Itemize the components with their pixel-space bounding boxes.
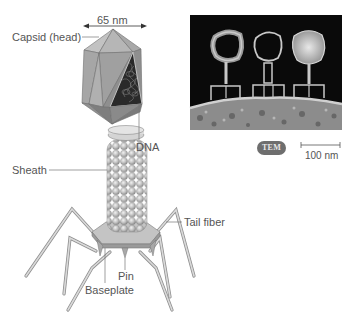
capsid-label: Capsid (head) bbox=[12, 31, 81, 43]
collar-shape bbox=[108, 126, 144, 141]
phage-diagram bbox=[0, 0, 349, 313]
sheath-shape bbox=[107, 140, 147, 232]
capsid-shape bbox=[82, 29, 142, 124]
pin-label: Pin bbox=[118, 270, 134, 282]
dna-label: DNA bbox=[136, 141, 159, 153]
tem-badge: TEM bbox=[257, 141, 286, 155]
tail-fiber-label: Tail fiber bbox=[184, 216, 225, 228]
scale-bar bbox=[301, 142, 340, 148]
scale-bar-label: 100 nm bbox=[305, 150, 338, 162]
width-measure-label: 65 nm bbox=[97, 14, 128, 26]
sheath-label: Sheath bbox=[12, 164, 47, 176]
baseplate-label: Baseplate bbox=[85, 284, 134, 296]
tem-micrograph bbox=[190, 15, 342, 130]
